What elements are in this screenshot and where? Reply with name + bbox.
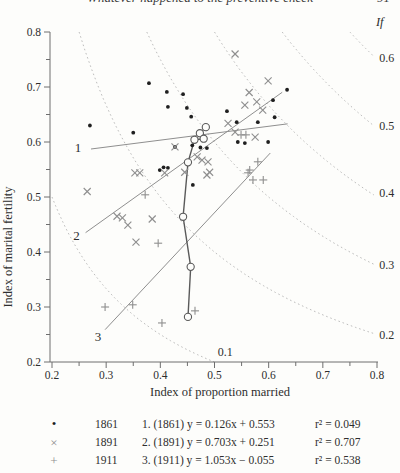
svg-text:0.6: 0.6: [261, 369, 276, 381]
legend-year: 1911: [95, 454, 118, 466]
legend-r-squared: r² = 0.707: [315, 436, 360, 448]
legend-row-1891: × 1891 2. (1891) y = 0.703x + 0.251 r² =…: [0, 435, 400, 453]
svg-text:0.7: 0.7: [316, 369, 331, 381]
svg-text:0.2: 0.2: [27, 356, 42, 368]
svg-text:0.2: 0.2: [379, 328, 394, 342]
legend-dot-icon: •: [47, 416, 61, 432]
svg-text:2: 2: [73, 228, 80, 243]
svg-text:0.1: 0.1: [218, 345, 233, 359]
legend-equation: 1. (1861) y = 0.126x + 0.553: [142, 418, 275, 430]
legend-plus-icon: +: [47, 453, 61, 469]
svg-text:3: 3: [95, 329, 102, 344]
legend-equation: 2. (1891) y = 0.703x + 0.251: [142, 436, 275, 448]
svg-text:1: 1: [75, 140, 82, 155]
book-page: Whatever happened to the preventive chec…: [0, 0, 400, 473]
svg-text:0.5: 0.5: [27, 191, 42, 203]
svg-text:0.5: 0.5: [207, 369, 222, 381]
svg-text:0.4: 0.4: [153, 369, 168, 381]
scatter-plot: 1230.20.20.30.30.40.40.50.50.60.60.70.70…: [0, 0, 400, 412]
svg-text:0.3: 0.3: [99, 369, 114, 381]
legend-year: 1861: [95, 418, 118, 430]
legend-year: 1891: [95, 436, 118, 448]
legend-r-squared: r² = 0.538: [315, 454, 360, 466]
svg-text:0.2: 0.2: [45, 369, 60, 381]
legend-equation: 3. (1911) y = 1.053x − 0.055: [142, 454, 274, 466]
svg-text:0.6: 0.6: [379, 51, 394, 65]
legend-x-icon: ×: [47, 435, 61, 451]
svg-text:If: If: [375, 15, 385, 29]
svg-text:0.7: 0.7: [27, 81, 42, 93]
svg-text:Index of proportion married: Index of proportion married: [150, 385, 291, 399]
svg-text:0.3: 0.3: [27, 301, 42, 313]
svg-text:0.4: 0.4: [27, 246, 42, 258]
legend-r-squared: r² = 0.049: [315, 418, 360, 430]
svg-text:0.8: 0.8: [27, 26, 42, 38]
legend-row-1911: + 1911 3. (1911) y = 1.053x − 0.055 r² =…: [0, 453, 400, 471]
legend-row-1861: • 1861 1. (1861) y = 0.126x + 0.553 r² =…: [0, 417, 400, 435]
svg-text:0.8: 0.8: [370, 369, 385, 381]
svg-text:0.3: 0.3: [379, 258, 394, 272]
svg-text:0.5: 0.5: [379, 119, 394, 133]
chart-legend: • 1861 1. (1861) y = 0.126x + 0.553 r² =…: [0, 417, 400, 471]
svg-text:0.6: 0.6: [27, 136, 42, 148]
svg-text:0.4: 0.4: [379, 186, 394, 200]
svg-text:Index of marital fertility: Index of marital fertility: [1, 186, 15, 308]
